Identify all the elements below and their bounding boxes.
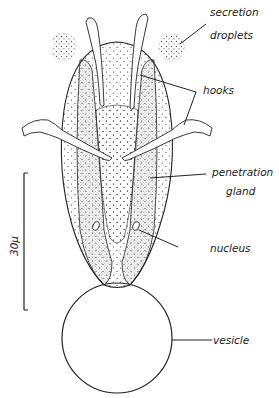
label-secretion: secretion: [210, 6, 259, 18]
label-hooks: hooks: [203, 84, 234, 96]
label-droplets: droplets: [210, 29, 253, 41]
label-nucleus: nucleus: [210, 242, 251, 254]
secretion-droplet-left: [52, 33, 77, 61]
leader-secretion: [180, 24, 206, 44]
label-penetration: penetration: [212, 166, 273, 178]
vesicle-circle: [62, 283, 172, 393]
secretion-droplet-right: [159, 34, 185, 61]
scale-bar-label: 30μ: [8, 236, 20, 256]
label-vesicle: vesicle: [213, 334, 249, 346]
label-gland: gland: [226, 185, 255, 197]
